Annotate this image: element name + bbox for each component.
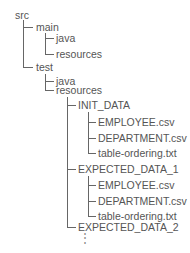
folder-main-java: java — [56, 32, 75, 44]
connector-line — [67, 169, 76, 170]
connector-line — [88, 176, 89, 217]
folder-init-data: INIT_DATA — [78, 99, 130, 111]
folder-expected-data-1: EXPECTED_DATA_1 — [78, 163, 179, 175]
file-exp1-department: DEPARTMENT.csv — [98, 195, 187, 207]
connector-line — [45, 54, 54, 55]
file-init-table-ordering: table-ordering.txt — [98, 147, 177, 159]
connector-line — [67, 105, 76, 106]
folder-src: src — [15, 9, 29, 21]
folder-test: test — [36, 61, 53, 73]
file-exp1-employee: EMPLOYEE.csv — [98, 179, 174, 191]
connector-line — [88, 216, 96, 217]
folder-expected-data-2: EXPECTED_DATA_2 — [78, 221, 179, 233]
connector-line — [45, 33, 46, 55]
connector-line — [23, 27, 33, 28]
folder-test-resources: resources — [56, 84, 102, 96]
connector-line — [88, 138, 96, 139]
connector-line — [88, 185, 96, 186]
connector-line — [45, 81, 54, 82]
file-init-employee: EMPLOYEE.csv — [98, 116, 174, 128]
connector-line — [23, 67, 33, 68]
connector-line — [88, 153, 96, 154]
connector-line — [45, 74, 46, 91]
folder-main-resources: resources — [56, 48, 102, 60]
connector-line — [67, 227, 76, 228]
vertical-ellipsis-icon: ⋮ — [79, 236, 83, 241]
connector-line — [88, 201, 96, 202]
connector-line — [88, 112, 89, 154]
connector-line — [45, 90, 54, 91]
connector-line — [67, 97, 68, 228]
file-init-department: DEPARTMENT.csv — [98, 132, 187, 144]
connector-line — [88, 122, 96, 123]
connector-line — [45, 38, 54, 39]
